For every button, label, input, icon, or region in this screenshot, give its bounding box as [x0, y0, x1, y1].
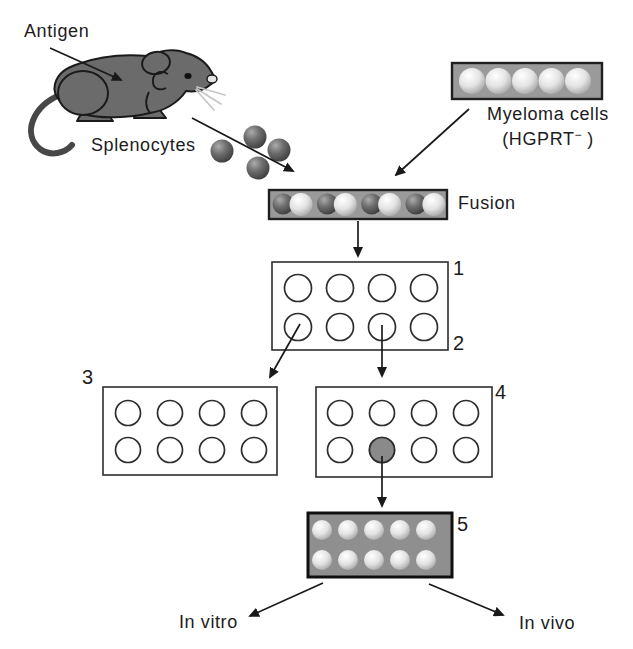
- cell: [416, 520, 436, 540]
- hgprt-minus-superscript: −: [575, 128, 582, 142]
- cell: [290, 193, 313, 216]
- cell: [116, 438, 141, 463]
- cell: [364, 550, 384, 570]
- mouse-haunch: [58, 71, 108, 115]
- cell: [200, 438, 225, 463]
- fusion-label: Fusion: [458, 193, 516, 214]
- step-5-label: 5: [457, 513, 468, 536]
- myeloma-bar: [452, 63, 602, 99]
- cell: [411, 314, 438, 341]
- fusion-bar: [269, 190, 447, 219]
- plate-4: [316, 387, 492, 477]
- cell: [158, 401, 183, 426]
- cell: [459, 68, 485, 94]
- antigen-label: Antigen: [24, 21, 89, 42]
- cell: [370, 401, 395, 426]
- in-vivo-arrow: [429, 584, 503, 615]
- cell: [390, 550, 410, 570]
- cell: [378, 193, 401, 216]
- cell: [411, 275, 438, 302]
- plate-1: [272, 262, 448, 350]
- plate-5: [308, 513, 452, 577]
- cell: [412, 438, 437, 463]
- cell: [390, 520, 410, 540]
- in-vivo-label: In vivo: [519, 613, 575, 634]
- cell: [242, 401, 267, 426]
- myeloma-cells-label: Myeloma cells (HGPRT− ): [463, 104, 633, 150]
- in-vitro-label: In vitro: [179, 612, 238, 633]
- mouse-nose: [207, 75, 217, 83]
- cell: [338, 520, 358, 540]
- cell: [200, 401, 225, 426]
- cell: [158, 438, 183, 463]
- cell: [512, 68, 538, 94]
- step-1-label: 1: [453, 257, 464, 280]
- cell: [565, 68, 591, 94]
- splenocytes-label: Splenocytes: [91, 135, 196, 156]
- cell: [422, 193, 445, 216]
- hybridoma-diagram: Antigen Splenocytes Myeloma cells (HGPRT…: [0, 0, 633, 649]
- cell: [312, 550, 332, 570]
- cell: [334, 193, 357, 216]
- mouse-eye: [184, 73, 191, 79]
- in-vitro-arrow: [250, 583, 323, 616]
- cell: [454, 401, 479, 426]
- cell: [416, 550, 436, 570]
- diagram-artwork: [0, 0, 633, 649]
- cell: [338, 550, 358, 570]
- cell: [328, 401, 353, 426]
- step-3-label: 3: [82, 366, 93, 389]
- cell: [116, 401, 141, 426]
- myeloma-cells-label-line2: (HGPRT− ): [463, 125, 633, 150]
- cell: [327, 275, 354, 302]
- cell: [285, 275, 312, 302]
- cell: [242, 438, 267, 463]
- step-4-label: 4: [495, 381, 506, 404]
- cell: [539, 68, 565, 94]
- cell: [327, 314, 354, 341]
- plate-3: [103, 387, 277, 475]
- cell: [328, 438, 353, 463]
- cell: [369, 275, 396, 302]
- myeloma-arrow: [396, 109, 469, 175]
- cell: [454, 438, 479, 463]
- myeloma-cells-label-line1: Myeloma cells: [463, 104, 633, 125]
- cell: [312, 520, 332, 540]
- cell: [364, 520, 384, 540]
- myeloma-cells: [459, 68, 591, 94]
- step-2-label: 2: [453, 332, 464, 355]
- cell: [486, 68, 512, 94]
- cell: [412, 401, 437, 426]
